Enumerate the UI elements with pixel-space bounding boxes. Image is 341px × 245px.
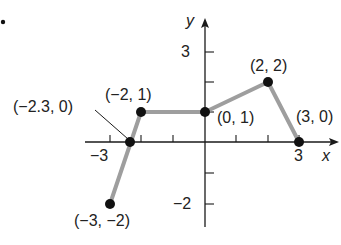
point-0-1 [200, 107, 210, 117]
point-2-2 [263, 77, 273, 87]
x-tick-label-3: 3 [294, 148, 303, 164]
point-3-0 [294, 137, 304, 147]
point-label-neg2-1: (−2, 1) [105, 87, 152, 103]
point-neg3-neg2 [105, 199, 115, 209]
point-label-neg3-neg2: (−3, −2) [74, 213, 130, 229]
y-tick-label-3: 3 [181, 44, 190, 60]
y-axis-label: y [186, 13, 194, 29]
x-tick-label-neg3: −3 [90, 148, 108, 164]
point-neg2.3-0 [125, 137, 135, 147]
x-axis-label: x [322, 148, 330, 164]
point-label-2-2: (2, 2) [250, 58, 287, 74]
point-neg2-1 [136, 107, 146, 117]
leader-line [95, 110, 128, 139]
point-label-0-1: (0, 1) [217, 110, 254, 126]
point-label-3-0: (3, 0) [296, 109, 333, 125]
y-ticks [205, 52, 214, 204]
point-label-neg2.3-0: (−2.3, 0) [13, 99, 73, 115]
y-tick-label-neg2: −2 [173, 196, 191, 212]
chart-canvas [0, 0, 341, 245]
bullet-dot-icon [1, 20, 5, 24]
